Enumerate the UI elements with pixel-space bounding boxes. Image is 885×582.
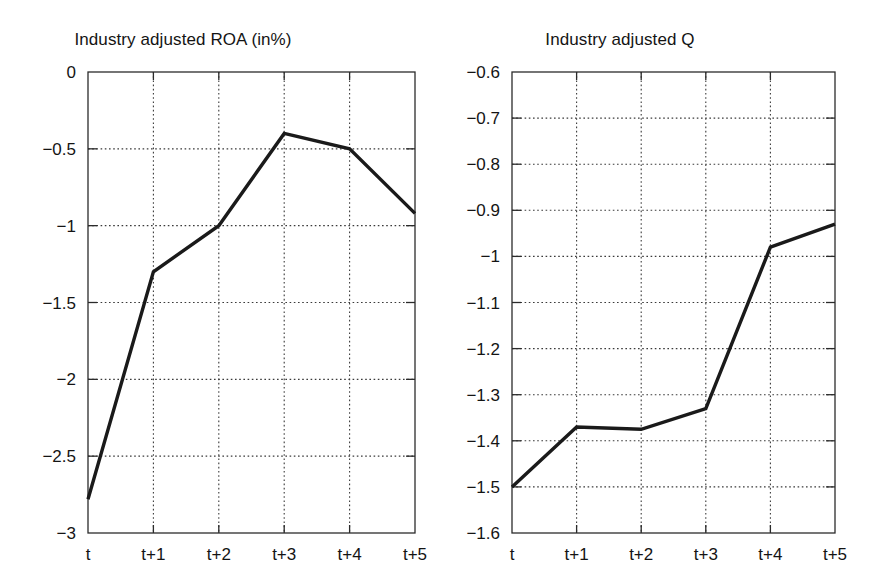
x-tick-label: t: [86, 545, 91, 564]
y-tick-label: −0.5: [42, 140, 76, 159]
data-series-line: [88, 133, 415, 499]
y-tick-label: −0.7: [466, 109, 500, 128]
figure-canvas: Industry adjusted ROA (in%) 0−0.5−1−1.5−…: [0, 0, 885, 582]
y-tick-label: −3: [57, 524, 76, 543]
x-tick-label: t+4: [338, 545, 362, 564]
x-tick-label: t+2: [629, 545, 653, 564]
y-tick-label: −2.5: [42, 447, 76, 466]
x-tick-label: t+1: [141, 545, 165, 564]
x-tick-label: t+4: [758, 545, 782, 564]
plot-area-q: −0.6−0.7−0.8−0.9−1−1.1−1.2−1.3−1.4−1.5−1…: [435, 0, 885, 582]
data-series-line: [512, 224, 835, 487]
y-tick-label: −1.5: [42, 294, 76, 313]
y-tick-label: 0: [67, 63, 76, 82]
x-tick-label: t: [510, 545, 515, 564]
y-tick-label: −1.1: [466, 294, 500, 313]
y-tick-label: −1.6: [466, 524, 500, 543]
x-tick-label: t+1: [565, 545, 589, 564]
y-tick-label: −1: [481, 247, 500, 266]
y-tick-label: −1.4: [466, 432, 500, 451]
plot-area-roa: 0−0.5−1−1.5−2−2.5−3tt+1t+2t+3t+4t+5: [0, 0, 450, 582]
y-tick-label: −1.5: [466, 478, 500, 497]
y-tick-label: −1.2: [466, 340, 500, 359]
y-tick-label: −0.9: [466, 201, 500, 220]
x-tick-label: t+3: [694, 545, 718, 564]
y-tick-label: −0.8: [466, 155, 500, 174]
y-tick-label: −0.6: [466, 63, 500, 82]
x-tick-label: t+3: [272, 545, 296, 564]
x-tick-label: t+2: [207, 545, 231, 564]
y-tick-label: −1.3: [466, 386, 500, 405]
x-tick-label: t+5: [823, 545, 847, 564]
y-tick-label: −2: [57, 370, 76, 389]
chart-panel-q: Industry adjusted Q −0.6−0.7−0.8−0.9−1−1…: [435, 0, 885, 582]
x-tick-label: t+5: [403, 545, 427, 564]
y-tick-label: −1: [57, 217, 76, 236]
chart-panel-roa: Industry adjusted ROA (in%) 0−0.5−1−1.5−…: [0, 0, 450, 582]
